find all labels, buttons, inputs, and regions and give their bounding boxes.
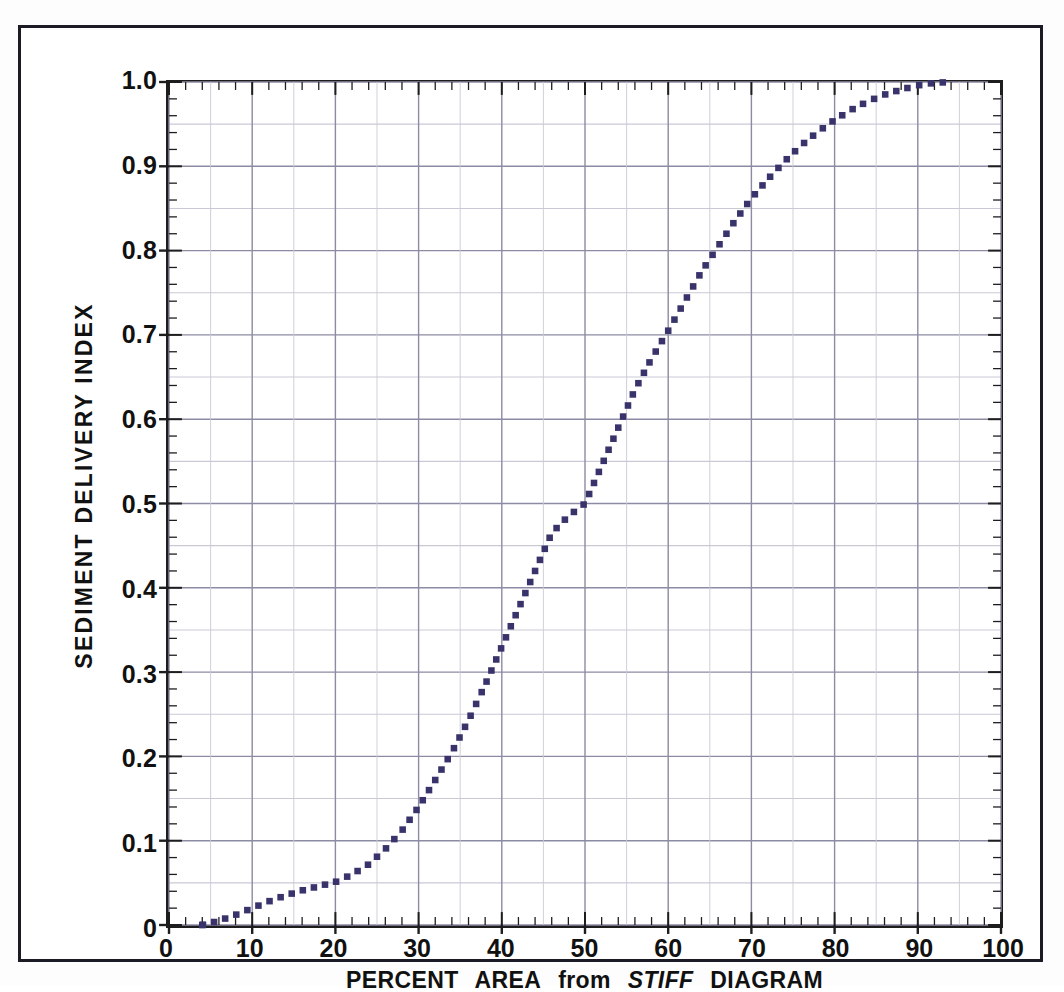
x-title-word-diagram: DIAGRAM xyxy=(710,967,823,992)
x-tick-label: 20 xyxy=(319,934,347,963)
y-tick-label: 0.5 xyxy=(122,490,157,519)
x-tick-label: 60 xyxy=(654,934,682,963)
x-tick-label: 40 xyxy=(487,934,515,963)
x-title-word-area: AREA xyxy=(475,967,542,992)
x-title-word-stiff: STIFF xyxy=(628,967,694,992)
y-tick-label: 0.2 xyxy=(122,744,157,773)
y-tick-label: 0.7 xyxy=(122,320,157,349)
y-tick-label: 0.9 xyxy=(122,150,157,179)
x-tick-label: 0 xyxy=(159,934,173,963)
x-title-word-from: from xyxy=(558,967,611,992)
y-tick-label: 0.3 xyxy=(122,659,157,688)
x-tick-label: 10 xyxy=(236,934,264,963)
data-curve xyxy=(169,82,1001,925)
y-tick-label: 0.1 xyxy=(122,829,157,858)
x-tick-label: 80 xyxy=(822,934,850,963)
x-tick-label: 70 xyxy=(738,934,766,963)
x-tick-label: 100 xyxy=(982,934,1024,963)
x-tick-label: 90 xyxy=(905,934,933,963)
y-tick-label: 0 xyxy=(143,914,157,943)
y-axis-tick-labels: 00.10.20.30.40.50.60.70.80.91.0 xyxy=(99,80,157,928)
y-tick-label: 0.4 xyxy=(122,574,157,603)
x-title-word-percent: PERCENT xyxy=(346,967,459,992)
x-axis-tick-labels: 0102030405060708090100 xyxy=(166,934,1003,968)
plot-area xyxy=(166,80,1003,928)
x-axis-title: PERCENT AREA from STIFF DIAGRAM xyxy=(166,967,1003,992)
y-tick-label: 0.6 xyxy=(122,405,157,434)
y-axis-title: SEDIMENT DELIVERY INDEX xyxy=(71,106,98,866)
y-tick-label: 0.8 xyxy=(122,235,157,264)
x-tick-label: 50 xyxy=(571,934,599,963)
x-tick-label: 30 xyxy=(403,934,431,963)
y-tick-label: 1.0 xyxy=(122,66,157,95)
figure-frame: 00.10.20.30.40.50.60.70.80.91.0 01020304… xyxy=(18,25,1043,962)
